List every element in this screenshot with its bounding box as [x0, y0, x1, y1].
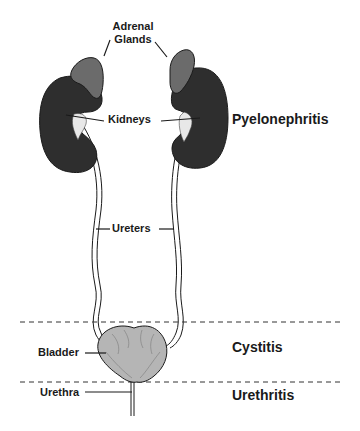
adrenal-label-line1: Adrenal	[108, 20, 158, 33]
pyelonephritis-label: Pyelonephritis	[232, 111, 328, 127]
urethritis-label: Urethritis	[232, 387, 294, 403]
bladder	[98, 326, 167, 382]
urethra	[131, 382, 134, 416]
cystitis-label: Cystitis	[232, 339, 283, 355]
urinary-tract-diagram	[0, 0, 360, 431]
bladder-label: Bladder	[38, 346, 79, 358]
kidneys-label: Kidneys	[108, 113, 151, 125]
urethra-label: Urethra	[40, 386, 79, 398]
adrenal-glands-label: Adrenal Glands	[108, 20, 158, 46]
adrenal-label-line2: Glands	[108, 33, 158, 46]
ureters-label: Ureters	[112, 222, 151, 234]
